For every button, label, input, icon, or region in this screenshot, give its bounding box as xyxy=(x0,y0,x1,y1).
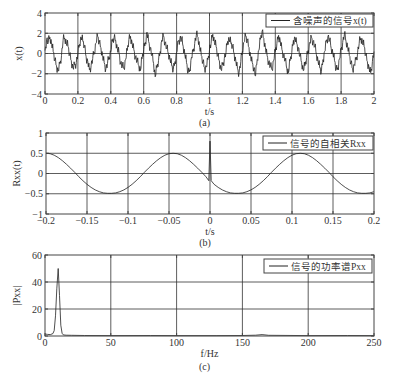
legend-entry: 信号的自相关Rxx xyxy=(290,138,366,149)
subplot-caption: (a) xyxy=(199,117,210,129)
x-tick-label: 0.1 xyxy=(286,215,299,226)
y-tick-label: 0 xyxy=(38,168,43,179)
x-tick-label: 1.6 xyxy=(302,95,315,106)
y-axis-label: x(t) xyxy=(13,46,25,60)
y-tick-label: 1 xyxy=(38,128,43,139)
y-tick-label: 60 xyxy=(32,250,42,261)
x-tick-label: 100 xyxy=(169,337,184,348)
x-tick-label: 1.4 xyxy=(269,95,282,106)
x-tick-label: 0.6 xyxy=(137,95,150,106)
legend: 含噪声的信号x(t) xyxy=(266,14,373,27)
x-tick-label: 1 xyxy=(207,95,212,106)
x-tick-label: 50 xyxy=(106,337,116,348)
y-tick-label: 0.5 xyxy=(31,148,44,159)
x-tick-label: 0.05 xyxy=(242,215,260,226)
x-tick-label: −0.05 xyxy=(157,215,180,226)
subplot-b: −0.2−0.15−0.1−0.0500.050.10.150.2−1−0.50… xyxy=(11,128,380,250)
x-tick-label: 0.8 xyxy=(170,95,183,106)
x-axis-label: t/s xyxy=(205,106,215,117)
x-tick-label: 0 xyxy=(43,95,48,106)
x-axis-label: f/Hz xyxy=(201,348,219,359)
figure: 00.20.40.60.811.21.41.61.82−4−2024t/sx(t… xyxy=(0,0,393,381)
y-tick-label: 20 xyxy=(32,304,42,315)
y-tick-label: −0.5 xyxy=(25,188,43,199)
legend: 信号的自相关Rxx xyxy=(263,136,373,150)
y-tick-label: −1 xyxy=(32,209,43,220)
x-tick-label: 0.2 xyxy=(368,215,381,226)
legend-entry: 含噪声的信号x(t) xyxy=(293,15,367,27)
y-tick-label: −2 xyxy=(31,68,42,79)
x-tick-label: 250 xyxy=(367,337,382,348)
subplot-caption: (b) xyxy=(199,237,211,249)
x-tick-label: 150 xyxy=(235,337,250,348)
x-tick-label: 0.15 xyxy=(324,215,342,226)
y-tick-label: 0 xyxy=(37,331,42,342)
y-tick-label: 0 xyxy=(37,48,42,59)
x-tick-label: 1.2 xyxy=(236,95,249,106)
legend: 信号的功率谱Pxx xyxy=(264,259,372,273)
y-axis-label: Rxx(t) xyxy=(11,160,23,186)
y-tick-label: 2 xyxy=(37,28,42,39)
legend-entry: 信号的功率谱Pxx xyxy=(291,261,366,272)
x-tick-label: 200 xyxy=(301,337,316,348)
x-tick-label: 2 xyxy=(372,95,377,106)
x-tick-label: 0 xyxy=(208,215,213,226)
x-axis-label: t/s xyxy=(205,226,215,237)
y-tick-label: −4 xyxy=(31,89,42,100)
y-tick-label: 40 xyxy=(32,277,42,288)
x-tick-label: −0.1 xyxy=(119,215,137,226)
y-axis-label: |Pxx| xyxy=(11,286,22,306)
x-tick-label: 0 xyxy=(43,337,48,348)
subplot-c: 0501001502002500204060f/Hz|Pxx|(c)信号的功率谱… xyxy=(11,250,382,374)
x-tick-label: 0.2 xyxy=(72,95,85,106)
x-tick-label: 0.4 xyxy=(105,95,118,106)
series-line xyxy=(45,269,374,336)
y-tick-label: 4 xyxy=(37,8,42,19)
subplot-caption: (c) xyxy=(199,361,210,373)
x-tick-label: −0.15 xyxy=(75,215,98,226)
subplot-a: 00.20.40.60.811.21.41.61.82−4−2024t/sx(t… xyxy=(13,8,377,130)
x-tick-label: 1.8 xyxy=(335,95,348,106)
